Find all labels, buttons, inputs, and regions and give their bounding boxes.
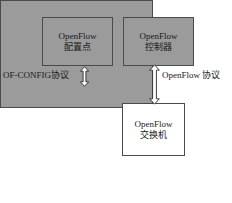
config-point-label-line2: 配置点: [64, 42, 91, 53]
openflow-config-point-box[interactable]: OpenFlow 配置点: [42, 17, 113, 66]
switch-label-line1: OpenFlow: [135, 119, 173, 130]
openflow-controller-box[interactable]: OpenFlow 控制器: [123, 17, 194, 66]
of-config-double-arrow-icon: [79, 66, 90, 87]
switch-label-line2: 交换机: [140, 130, 167, 141]
controller-label-line2: 控制器: [145, 42, 172, 53]
diagram-canvas: OpenFlow 配置点 OpenFlow 控制器 OpenFlow 交换机 O…: [0, 0, 232, 203]
openflow-double-arrow-icon: [148, 64, 161, 105]
openflow-protocol-label: OpenFlow 协议: [162, 68, 220, 81]
config-point-label-line1: OpenFlow: [59, 31, 97, 42]
openflow-switch-box[interactable]: OpenFlow 交换机: [122, 103, 185, 156]
controller-label-line1: OpenFlow: [140, 31, 178, 42]
of-config-protocol-label: OF-CONFIG协议: [3, 68, 69, 81]
